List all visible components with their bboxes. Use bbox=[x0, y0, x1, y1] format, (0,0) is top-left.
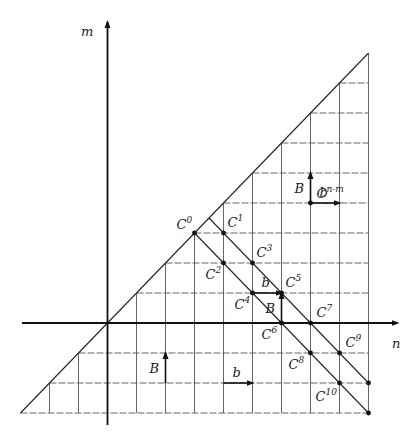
point-label-C9: C9 bbox=[346, 333, 362, 350]
lattice-point bbox=[279, 321, 284, 326]
vector-label-b: b bbox=[233, 365, 241, 380]
point-label-C1: C1 bbox=[228, 213, 244, 230]
lattice-point bbox=[192, 231, 197, 236]
labels: n m C0C1C2C3C4C5C6C7C8C9C10Cn-m bbox=[81, 24, 400, 404]
lattice-point bbox=[366, 381, 371, 386]
point-label-C2: C2 bbox=[206, 265, 222, 282]
lattice-point bbox=[308, 321, 313, 326]
point-label-C10: C10 bbox=[316, 387, 338, 404]
point-label-C8: C8 bbox=[289, 355, 305, 372]
lattice-point bbox=[308, 351, 313, 356]
lattice-point bbox=[337, 351, 342, 356]
point-label-C3: C3 bbox=[257, 243, 273, 260]
vector-label-B: B bbox=[265, 301, 276, 316]
vector-label-b: b bbox=[262, 275, 270, 290]
lattice-point bbox=[221, 261, 226, 266]
x-axis-label: n bbox=[392, 336, 400, 351]
vector-label-B: B bbox=[294, 181, 305, 196]
lattice-point bbox=[279, 291, 284, 296]
lattice-point bbox=[366, 411, 371, 416]
point-label-C7: C7 bbox=[317, 303, 333, 320]
lattice-point bbox=[250, 291, 255, 296]
point-label-C4: C4 bbox=[235, 295, 251, 312]
point-label-C6: C6 bbox=[262, 325, 278, 342]
y-axis-label: m bbox=[81, 24, 93, 39]
lattice-diagram: bBBbBb n m C0C1C2C3C4C5C6C7C8C9C10Cn-m bbox=[0, 0, 419, 441]
lattice-point bbox=[250, 261, 255, 266]
lattice-point bbox=[337, 381, 342, 386]
point-label-C0: C0 bbox=[177, 215, 193, 232]
point-label-C5: C5 bbox=[286, 273, 302, 290]
lattice-point bbox=[221, 231, 226, 236]
vector-label-B: B bbox=[149, 361, 160, 376]
lattice-point bbox=[308, 201, 313, 206]
